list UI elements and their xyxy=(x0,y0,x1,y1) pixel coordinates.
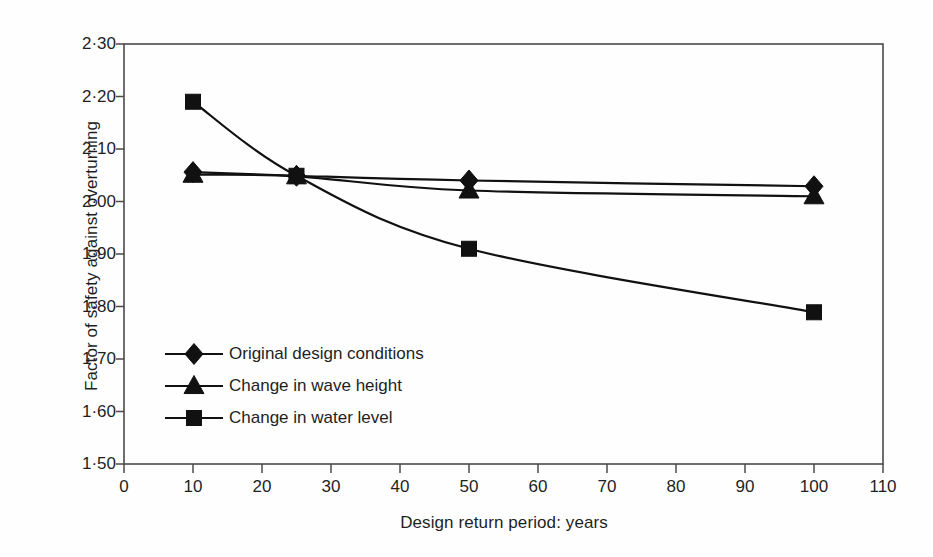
triangle-marker-icon xyxy=(163,373,225,399)
legend-item-label: Change in wave height xyxy=(225,376,402,396)
chart-figure: Factor of safety against overturning Des… xyxy=(0,0,933,557)
legend-swatch-graphic xyxy=(163,405,225,431)
diamond-data-marker xyxy=(185,344,203,365)
series-line xyxy=(193,102,814,313)
legend-item-original-design-conditions: Original design conditions xyxy=(163,338,493,370)
legend-item-label: Original design conditions xyxy=(225,344,424,364)
square-data-marker xyxy=(807,305,822,320)
square-marker-icon xyxy=(163,405,225,431)
legend-item-label: Change in water level xyxy=(225,408,392,428)
triangle-data-marker xyxy=(184,376,204,394)
legend-swatch-graphic xyxy=(163,373,225,399)
plot-area xyxy=(0,0,933,557)
legend-item-change-in-water-level: Change in water level xyxy=(163,402,493,434)
legend-swatch-graphic xyxy=(163,341,225,367)
chart-legend: Original design conditions Change in wav… xyxy=(163,338,493,434)
y-axis-ticks xyxy=(116,44,124,464)
diamond-marker-icon xyxy=(163,341,225,367)
legend-item-change-in-wave-height: Change in wave height xyxy=(163,370,493,402)
square-data-marker xyxy=(289,168,304,183)
square-data-marker xyxy=(187,411,202,426)
x-axis-ticks xyxy=(124,464,883,473)
square-data-marker xyxy=(462,241,477,256)
data-series xyxy=(186,94,822,320)
square-data-marker xyxy=(186,94,201,109)
